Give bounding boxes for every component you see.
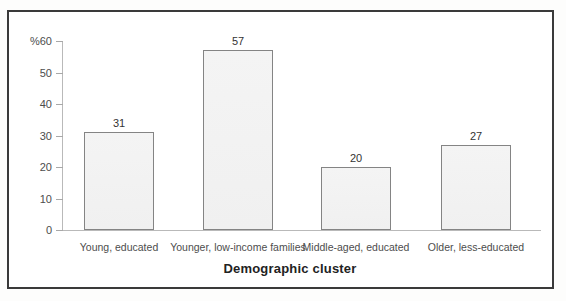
- bar: [203, 50, 273, 230]
- x-axis-title: Demographic cluster: [51, 261, 529, 276]
- x-category-label: Older, less-educated: [386, 241, 566, 254]
- y-tick: [56, 41, 63, 42]
- y-tick: [56, 136, 63, 137]
- y-tick-label: 30: [9, 130, 52, 142]
- bar: [84, 132, 154, 230]
- y-tick-label: 20: [9, 161, 52, 173]
- y-tick: [56, 104, 63, 105]
- y-tick-label: 10: [9, 193, 52, 205]
- y-tick: [56, 199, 63, 200]
- bar-value-label: 57: [203, 35, 273, 47]
- chart-frame: % 0102030405060 31572027 Young, educated…: [7, 10, 554, 289]
- y-tick-label: 0: [9, 224, 52, 236]
- bar: [321, 167, 391, 230]
- y-tick-label: 50: [9, 67, 52, 79]
- y-tick: [56, 230, 63, 231]
- plot-area: % 0102030405060 31572027 Young, educated…: [62, 41, 541, 231]
- bar-value-label: 27: [441, 130, 511, 142]
- y-tick-label: 60: [9, 35, 52, 47]
- page-background: % 0102030405060 31572027 Young, educated…: [0, 0, 566, 301]
- bar-value-label: 31: [84, 117, 154, 129]
- bar-value-label: 20: [321, 152, 391, 164]
- y-tick-label: 40: [9, 98, 52, 110]
- y-tick: [56, 73, 63, 74]
- bar: [441, 145, 511, 230]
- y-tick: [56, 167, 63, 168]
